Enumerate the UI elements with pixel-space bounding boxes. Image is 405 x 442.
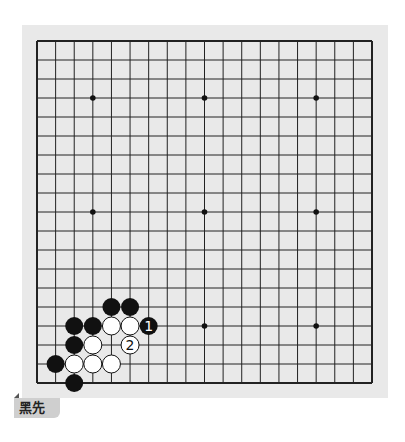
black-stone[interactable] [65, 336, 83, 354]
black-stone[interactable] [65, 317, 83, 335]
black-stone[interactable] [47, 355, 65, 373]
star-point [202, 323, 208, 329]
white-stone[interactable] [84, 336, 102, 354]
white-stone[interactable] [65, 355, 83, 373]
star-point [202, 95, 208, 101]
star-point [90, 95, 96, 101]
star-point [90, 209, 96, 215]
white-stone[interactable] [121, 317, 139, 335]
white-stone[interactable] [102, 317, 120, 335]
black-stone[interactable] [102, 298, 120, 316]
move-number: 2 [126, 337, 135, 353]
board-grid[interactable]: 12 [0, 0, 405, 442]
white-stone[interactable] [102, 355, 120, 373]
white-stone[interactable] [84, 355, 102, 373]
star-point [313, 209, 319, 215]
star-point [313, 323, 319, 329]
move-number: 1 [144, 318, 153, 334]
star-point [313, 95, 319, 101]
star-point [202, 209, 208, 215]
black-stone[interactable] [84, 317, 102, 335]
turn-label: 黑先 [19, 399, 45, 417]
black-stone[interactable] [65, 374, 83, 392]
black-stone[interactable] [121, 298, 139, 316]
